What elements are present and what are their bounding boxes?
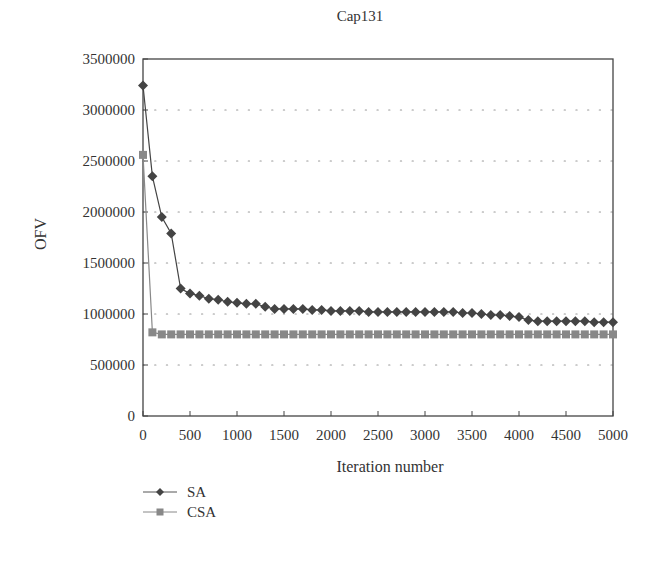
svg-text:3500: 3500 [457,427,487,443]
legend-label: CSA [187,504,216,521]
legend: SA CSA [143,482,216,522]
chart-title: Cap131 [300,8,420,25]
svg-text:500: 500 [179,427,202,443]
svg-text:1500: 1500 [269,427,299,443]
svg-text:3500000: 3500000 [83,51,136,67]
svg-text:1000000: 1000000 [83,306,136,322]
diamond-marker-icon [143,486,177,498]
svg-text:5000: 5000 [598,427,628,443]
svg-text:2000000: 2000000 [83,204,136,220]
svg-text:4500: 4500 [551,427,581,443]
svg-text:0: 0 [128,408,136,424]
legend-label: SA [187,484,206,501]
y-axis-label: OFV [32,218,50,250]
gridlines [143,110,613,365]
svg-text:3000000: 3000000 [83,102,136,118]
svg-text:2000: 2000 [316,427,346,443]
svg-text:500000: 500000 [90,357,135,373]
legend-item-sa: SA [143,482,216,502]
svg-text:2500: 2500 [363,427,393,443]
data-series [138,81,618,339]
svg-text:3000: 3000 [410,427,440,443]
svg-text:0: 0 [139,427,147,443]
svg-text:2500000: 2500000 [83,153,136,169]
legend-item-csa: CSA [143,502,216,522]
svg-text:1000: 1000 [222,427,252,443]
square-marker-icon [143,506,177,518]
svg-text:4000: 4000 [504,427,534,443]
x-axis-label: Iteration number [300,458,480,476]
svg-text:1500000: 1500000 [83,255,136,271]
line-chart: 0500000100000015000002000000250000030000… [0,0,657,565]
